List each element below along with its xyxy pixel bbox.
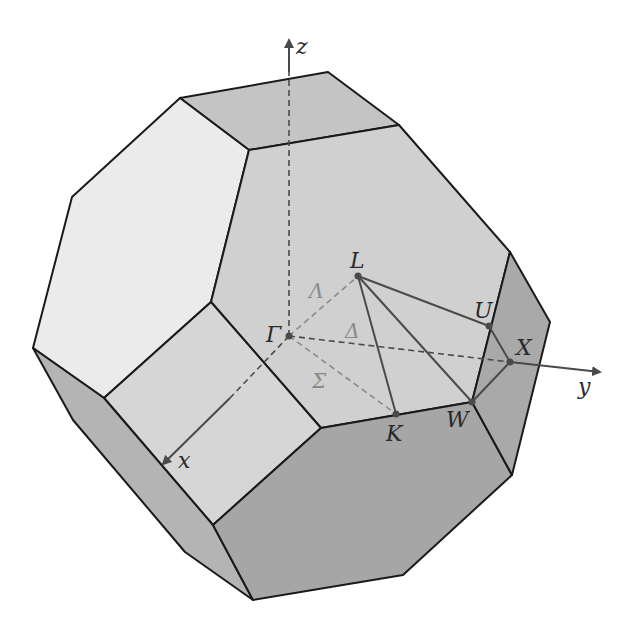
point-X [507, 359, 514, 366]
label-W: W [446, 407, 471, 432]
label-sigma: Σ [311, 369, 327, 393]
point-U [486, 323, 493, 330]
label-lambda: Λ [307, 279, 323, 303]
label-U: U [474, 298, 494, 323]
point-W [469, 399, 476, 406]
label-z: z [295, 34, 308, 59]
label-K: K [385, 421, 404, 446]
point-gamma [286, 333, 293, 340]
label-x: x [178, 448, 191, 473]
point-L [355, 273, 362, 280]
brillouin-zone-diagram: z y x Γ L K W U X Λ Δ Σ [0, 0, 635, 630]
label-y: y [577, 374, 591, 399]
point-K [393, 411, 400, 418]
label-gamma: Γ [265, 322, 282, 347]
label-delta: Δ [344, 319, 359, 343]
label-L: L [349, 248, 365, 273]
label-X: X [514, 335, 533, 360]
